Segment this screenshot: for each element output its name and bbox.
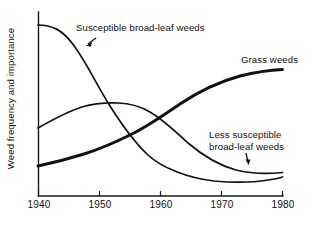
annotation-less-susceptible-line-2: broad-leaf weeds [209, 141, 284, 153]
annotation-less-susceptible-line-1: Less susceptible [209, 129, 284, 141]
less-susceptible-arrow-head [246, 160, 251, 166]
chart-canvas [0, 0, 320, 229]
y-axis-label-wrapper: Weed frequency and importance [2, 0, 20, 196]
weed-frequency-chart: Weed frequency and importance 1940 1950 … [0, 0, 320, 229]
curve-susceptible-broad-leaf-weeds [38, 25, 283, 182]
annotation-grass-weeds: Grass weeds [241, 54, 298, 66]
annotation-less-susceptible-broad-leaf-weeds: Less susceptible broad-leaf weeds [209, 129, 284, 152]
susceptible-arrow-line [88, 38, 96, 44]
x-tick-label-1980: 1980 [268, 199, 298, 210]
x-tick-label-1940: 1940 [24, 199, 54, 210]
annotation-susceptible-broad-leaf-weeds: Susceptible broad-leaf weeds [76, 22, 205, 34]
x-tick-label-1970: 1970 [207, 199, 237, 210]
y-axis-label: Weed frequency and importance [6, 27, 17, 168]
x-tick-label-1950: 1950 [85, 199, 115, 210]
x-tick-label-1960: 1960 [146, 199, 176, 210]
